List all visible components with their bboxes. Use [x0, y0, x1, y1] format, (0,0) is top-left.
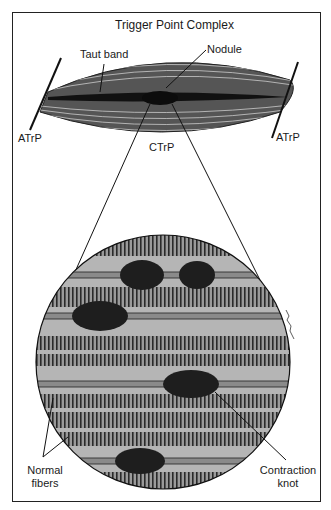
label-nodule: Nodule: [207, 43, 242, 56]
label-contraction-knot: Contraction knot: [258, 464, 318, 490]
label-atrp-left: ATrP: [18, 132, 42, 145]
label-contraction-knot-line2: knot: [258, 477, 318, 490]
normal-fibers-leader-2: [43, 437, 68, 457]
label-normal-fibers-line1: Normal: [22, 464, 68, 477]
label-atrp-right: ATrP: [276, 131, 300, 144]
label-contraction-knot-line1: Contraction: [258, 464, 318, 477]
muscle-belly: [40, 63, 300, 132]
label-taut-band: Taut band: [80, 48, 128, 61]
trigger-point-diagram: [0, 0, 331, 510]
label-normal-fibers-line2: fibers: [22, 477, 68, 490]
diagram-title: Trigger Point Complex: [115, 19, 234, 32]
magnified-fibers: [30, 230, 300, 500]
label-ctrp: CTrP: [149, 141, 174, 154]
nodule-shape: [142, 91, 178, 105]
label-normal-fibers: Normal fibers: [22, 464, 68, 490]
